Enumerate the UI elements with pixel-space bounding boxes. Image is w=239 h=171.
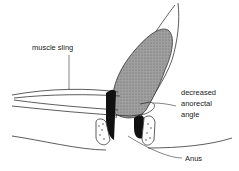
buttock-left	[12, 136, 106, 150]
label-angle-line3: angle	[181, 110, 199, 119]
label-angle-line2: anorectal	[181, 99, 212, 108]
buttock-right	[148, 138, 232, 148]
anatomy-drawing	[0, 0, 239, 171]
external-sphincter-right	[142, 116, 155, 145]
anorectal-diagram: muscle sling decreased anorectal angle A…	[0, 0, 239, 171]
muscle-sling-top	[12, 89, 118, 95]
leader-angle	[153, 103, 176, 106]
label-angle-line1: decreased	[181, 88, 216, 97]
label-muscle-sling: muscle sling	[32, 43, 73, 52]
label-anus: Anus	[185, 154, 202, 163]
stool-mass	[112, 29, 172, 118]
